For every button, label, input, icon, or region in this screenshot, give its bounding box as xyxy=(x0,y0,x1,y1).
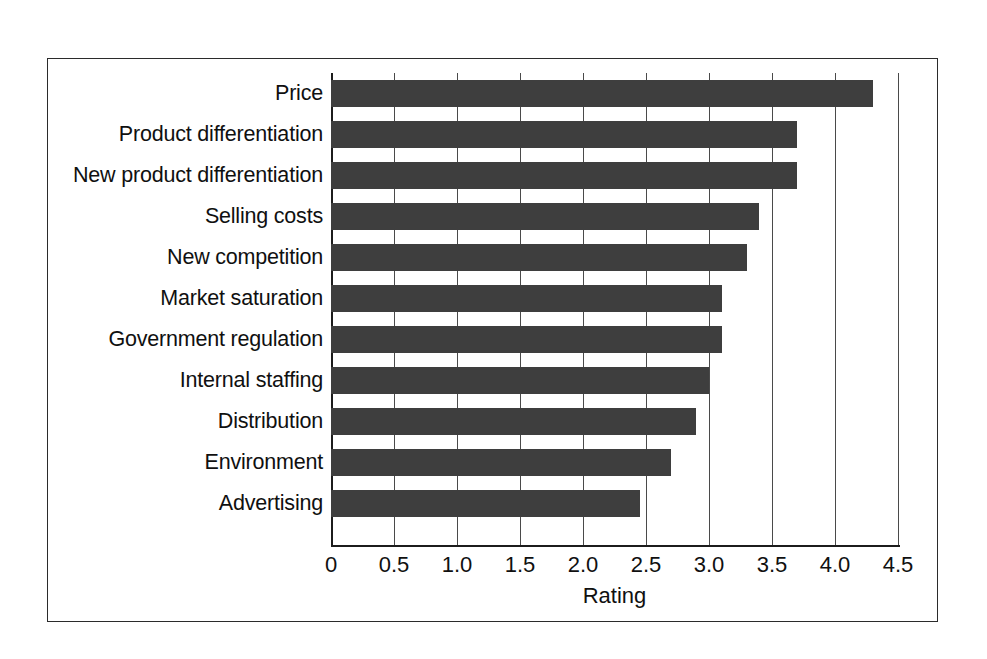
bar xyxy=(331,121,797,148)
bar-row xyxy=(331,196,898,237)
bar-row xyxy=(331,401,898,442)
bar xyxy=(331,203,759,230)
bar xyxy=(331,244,747,271)
category-label: Product differentiation xyxy=(23,114,323,155)
category-label: Government regulation xyxy=(23,319,323,360)
x-tick-label: 0.5 xyxy=(379,550,410,580)
category-label: Market saturation xyxy=(23,278,323,319)
category-label: New competition xyxy=(23,237,323,278)
category-label: Distribution xyxy=(23,401,323,442)
bar xyxy=(331,408,696,435)
x-tick-label: 2.5 xyxy=(631,550,662,580)
x-tick-label: 2.0 xyxy=(568,550,599,580)
x-tick-label: 3.5 xyxy=(757,550,788,580)
bar-row xyxy=(331,319,898,360)
bar xyxy=(331,490,640,517)
bar xyxy=(331,326,722,353)
bar xyxy=(331,80,873,107)
category-axis-labels: PriceProduct differentiationNew product … xyxy=(21,73,323,545)
bar-row xyxy=(331,114,898,155)
bar-row xyxy=(331,237,898,278)
x-axis-tick-labels: 00.51.01.52.02.53.03.54.04.5 xyxy=(0,550,987,584)
category-label: Environment xyxy=(23,442,323,483)
plot-area xyxy=(331,73,898,545)
x-tick-label: 4.0 xyxy=(820,550,851,580)
bar-row xyxy=(331,73,898,114)
bar xyxy=(331,162,797,189)
category-label: Internal staffing xyxy=(23,360,323,401)
bar-row xyxy=(331,483,898,524)
bar xyxy=(331,285,722,312)
x-axis-line xyxy=(331,545,900,547)
x-tick-label: 1.0 xyxy=(442,550,473,580)
category-label: Price xyxy=(23,73,323,114)
x-tick-label: 1.5 xyxy=(505,550,536,580)
category-label: Advertising xyxy=(23,483,323,524)
x-tick-label: 0 xyxy=(325,550,337,580)
bar-row xyxy=(331,278,898,319)
category-label: Selling costs xyxy=(23,196,323,237)
bar-row xyxy=(331,360,898,401)
x-tick-label: 3.0 xyxy=(694,550,725,580)
gridline-4.5 xyxy=(898,73,899,545)
bar xyxy=(331,449,671,476)
x-tick-label: 4.5 xyxy=(883,550,914,580)
category-label: New product differentiation xyxy=(23,155,323,196)
bar-row xyxy=(331,442,898,483)
figure-canvas: PriceProduct differentiationNew product … xyxy=(0,0,987,659)
bar xyxy=(331,367,709,394)
bar-row xyxy=(331,155,898,196)
x-axis-title: Rating xyxy=(331,583,898,609)
